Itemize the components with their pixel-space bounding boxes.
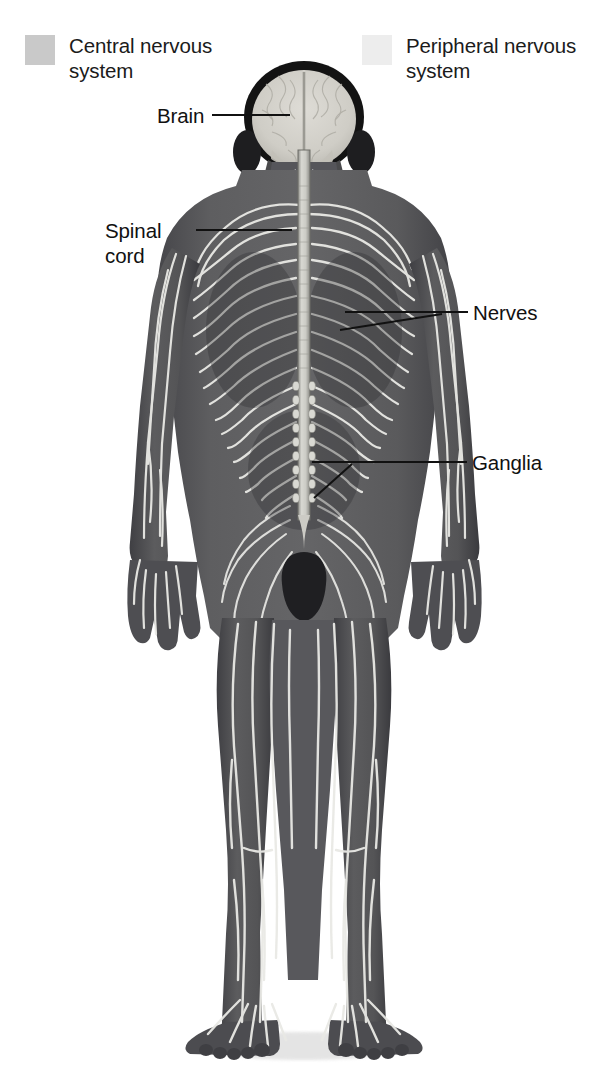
callout-leader-lines bbox=[0, 0, 609, 1084]
nervous-system-diagram: Central nervous system Peripheral nervou… bbox=[0, 0, 609, 1084]
leader-ganglia bbox=[312, 462, 467, 498]
leader-nerves bbox=[340, 312, 468, 330]
